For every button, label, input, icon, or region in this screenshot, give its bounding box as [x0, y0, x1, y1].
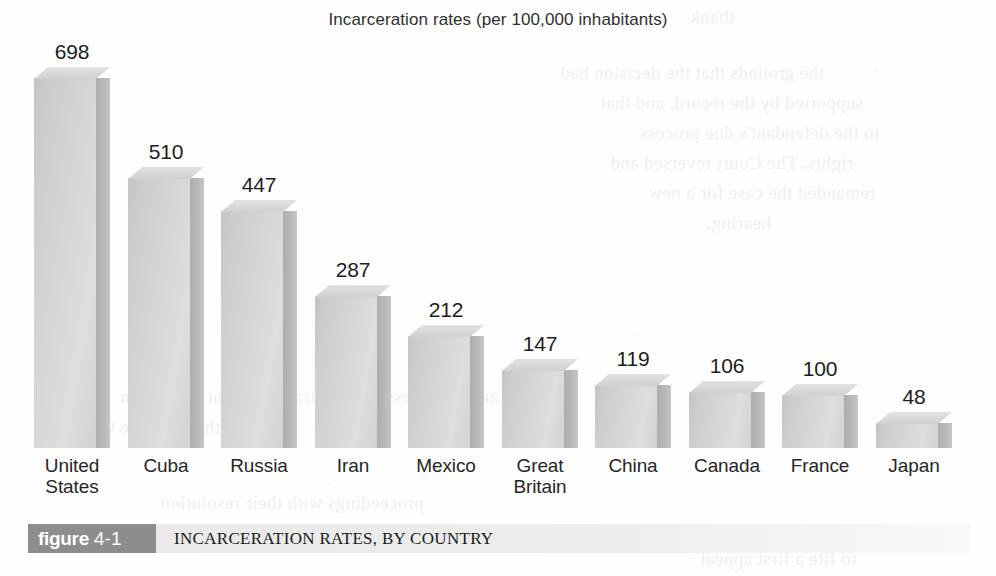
- bar-category-label: Iran: [299, 455, 407, 476]
- bar-category-label: France: [766, 455, 874, 476]
- bar-value-label: 287: [315, 258, 391, 282]
- bar-category-line: United: [18, 455, 126, 476]
- bar-china: [595, 385, 671, 448]
- bar-category-label: Cuba: [112, 455, 220, 476]
- bar-category-label: UnitedStates: [18, 455, 126, 497]
- bar-category-line: Canada: [673, 455, 781, 476]
- bar-category-line: Cuba: [112, 455, 220, 476]
- bar-value-label: 510: [128, 140, 204, 164]
- bar-category-label: Russia: [205, 455, 313, 476]
- bar-category-label: Japan: [860, 455, 968, 476]
- bar-great-britain: [502, 370, 578, 448]
- bar-value-label: 212: [408, 298, 484, 322]
- bar-side-face: [751, 392, 765, 448]
- bar-front-face: [221, 211, 283, 448]
- bar-canada: [689, 392, 765, 448]
- bar-cuba: [128, 178, 204, 448]
- bar-front-face: [502, 370, 564, 448]
- bar-value-label: 698: [34, 40, 110, 64]
- bar-side-face: [377, 296, 391, 448]
- bar-category-label: GreatBritain: [486, 455, 594, 497]
- bar-category-line: Russia: [205, 455, 313, 476]
- figure-badge-number: 4-1: [94, 528, 121, 550]
- bar-front-face: [689, 392, 751, 448]
- bar-side-face: [844, 395, 858, 448]
- bar-front-face: [782, 395, 844, 448]
- bar-side-face: [564, 370, 578, 448]
- figure-caption-bar: figure 4-1 INCARCERATION RATES, BY COUNT…: [28, 524, 970, 553]
- bar-japan: [876, 423, 952, 448]
- bar-value-label: 100: [782, 357, 858, 381]
- bar-value-label: 119: [595, 347, 671, 371]
- plot-area: 69851044728721214711910610048: [0, 0, 996, 460]
- bar-front-face: [595, 385, 657, 448]
- bar-mexico: [408, 336, 484, 448]
- bar-category-line: Japan: [860, 455, 968, 476]
- bar-category-label: Mexico: [392, 455, 500, 476]
- bar-front-face: [315, 296, 377, 448]
- bar-united-states: [34, 78, 110, 448]
- bar-value-label: 447: [221, 173, 297, 197]
- bar-front-face: [408, 336, 470, 448]
- bar-value-label: 147: [502, 332, 578, 356]
- bar-front-face: [34, 78, 96, 448]
- bar-france: [782, 395, 858, 448]
- bar-side-face: [657, 385, 671, 448]
- bar-category-label: Canada: [673, 455, 781, 476]
- bar-category-line: Iran: [299, 455, 407, 476]
- bar-category-line: Britain: [486, 476, 594, 497]
- figure-badge-word: figure: [38, 528, 89, 550]
- bar-side-face: [283, 211, 297, 448]
- bar-side-face: [938, 423, 952, 448]
- bar-front-face: [128, 178, 190, 448]
- figure-caption-text: INCARCERATION RATES, BY COUNTRY: [156, 524, 493, 553]
- bar-value-label: 48: [876, 385, 952, 409]
- bar-category-line: Mexico: [392, 455, 500, 476]
- bar-side-face: [96, 78, 110, 448]
- bar-category-line: China: [579, 455, 687, 476]
- bar-category-label: China: [579, 455, 687, 476]
- bar-front-face: [876, 423, 938, 448]
- bar-value-label: 106: [689, 354, 765, 378]
- bar-category-line: States: [18, 476, 126, 497]
- bar-side-face: [470, 336, 484, 448]
- bar-iran: [315, 296, 391, 448]
- bar-russia: [221, 211, 297, 448]
- figure-number-badge: figure 4-1: [28, 524, 156, 553]
- bar-side-face: [190, 178, 204, 448]
- bar-chart: Incarceration rates (per 100,000 inhabit…: [0, 0, 996, 576]
- bar-category-line: France: [766, 455, 874, 476]
- bar-category-line: Great: [486, 455, 594, 476]
